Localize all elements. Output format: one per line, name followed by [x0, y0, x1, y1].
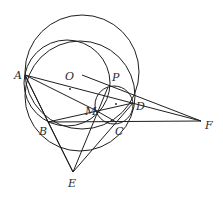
geometry-figure: A B C D E F M O P: [0, 0, 223, 197]
label-f: F: [204, 119, 213, 132]
segment-be: [48, 122, 73, 172]
label-a: A: [13, 69, 22, 82]
segment-mc: [97, 111, 116, 122]
center-dot-small-circle: [115, 103, 117, 105]
label-e: E: [67, 177, 76, 190]
segment-bf: [48, 121, 201, 122]
center-dot-o: [69, 88, 71, 90]
label-c: C: [115, 125, 124, 138]
geometry-canvas: A B C D E F M O P: [0, 0, 223, 197]
segment-of: [82, 75, 201, 121]
segment-ep: [73, 87, 108, 172]
label-b: B: [38, 125, 47, 138]
label-o: O: [65, 70, 74, 83]
big-circle: [25, 15, 139, 129]
label-d: D: [135, 100, 145, 113]
segment-ed: [73, 103, 133, 172]
label-p: P: [111, 71, 120, 84]
label-m: M: [84, 105, 97, 118]
